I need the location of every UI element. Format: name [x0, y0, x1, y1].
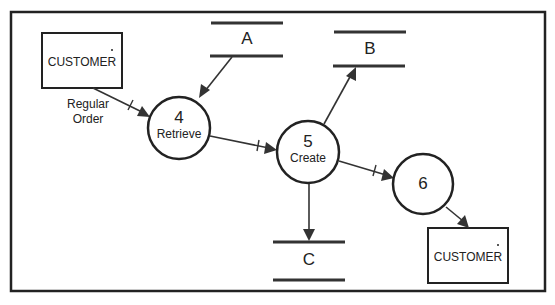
flow-create-to-process-6[interactable] [339, 161, 394, 181]
data-store-b-label: B [334, 39, 406, 59]
flow-label-regular-order: Regular Order [58, 97, 118, 127]
flow-store-a-to-retrieve[interactable] [199, 57, 232, 98]
flow-process-6-to-customer[interactable] [446, 207, 469, 228]
entity-marker-dot-icon [497, 244, 499, 246]
flow-create-to-store-b[interactable] [324, 67, 356, 124]
flow-retrieve-to-create[interactable] [210, 136, 277, 154]
entity-marker-dot-icon [111, 49, 113, 51]
arrowhead-icon [346, 67, 356, 81]
process-5-number: 5 [277, 132, 339, 152]
entity-customer-sink-label: CUSTOMER [428, 250, 508, 264]
flow-create-to-store-c[interactable] [303, 184, 315, 241]
entity-customer-source-label: CUSTOMER [42, 55, 122, 69]
arrowhead-icon [303, 229, 315, 241]
flow-label-line-2: Order [58, 112, 118, 127]
data-store-c-label: C [273, 250, 345, 270]
process-5-name: Create [277, 151, 339, 165]
flow-label-line-1: Regular [58, 97, 118, 112]
process-6-number: 6 [393, 174, 453, 194]
data-store-a-label: A [211, 29, 283, 49]
process-4-name: Retrieve [148, 127, 210, 141]
process-4-number: 4 [148, 108, 210, 128]
arrowhead-icon [264, 142, 277, 154]
